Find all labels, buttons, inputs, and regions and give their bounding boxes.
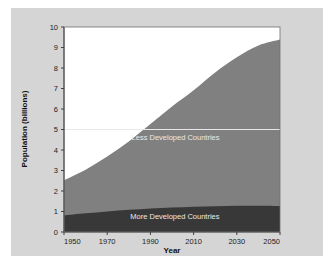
x-axis-title: Year: [164, 246, 181, 255]
y-axis-ticks: 012345678910: [50, 23, 64, 237]
x-tick-label: 1970: [99, 237, 116, 246]
x-tick-label: 2050: [263, 237, 280, 246]
chart-container: 012345678910 195019701990201020302050 Po…: [11, 8, 323, 256]
x-axis-ticks: 195019701990201020302050: [64, 232, 280, 246]
y-tick-label: 3: [54, 166, 58, 175]
y-tick-label: 5: [54, 125, 58, 134]
y-tick-label: 7: [54, 84, 58, 93]
figure-panel: 012345678910 195019701990201020302050 Po…: [11, 8, 323, 256]
y-tick-label: 9: [54, 43, 58, 52]
x-tick-label: 1950: [64, 237, 81, 246]
y-tick-label: 6: [54, 105, 58, 114]
x-tick-label: 2010: [185, 237, 202, 246]
population-stacked-area-chart: 012345678910 195019701990201020302050 Po…: [11, 8, 323, 256]
x-tick-label: 2030: [228, 237, 245, 246]
y-tick-label: 1: [54, 207, 58, 216]
series-label-more-developed: More Developed Countries: [130, 212, 219, 221]
y-tick-label: 8: [54, 64, 58, 73]
y-axis-title: Population (billions): [20, 90, 29, 167]
series-label-less-developed: Less Developed Countries: [132, 133, 220, 142]
y-tick-label: 10: [50, 23, 58, 32]
y-tick-label: 0: [54, 228, 58, 237]
y-tick-label: 2: [54, 187, 58, 196]
y-tick-label: 4: [54, 146, 58, 155]
x-tick-label: 1990: [142, 237, 159, 246]
